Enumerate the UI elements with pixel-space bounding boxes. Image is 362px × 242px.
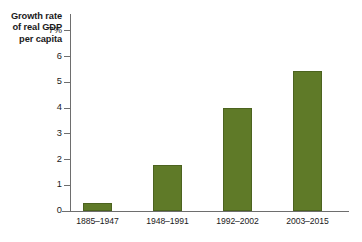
y-axis-label: 5 (2, 77, 62, 86)
bar (83, 203, 112, 211)
y-axis-labels: 7% 6 5 4 3 2 1 0 (0, 0, 62, 242)
y-axis-tick (64, 185, 70, 186)
y-axis-label: 6 (2, 52, 62, 61)
y-axis-tick (64, 30, 70, 31)
x-axis-line (62, 211, 349, 212)
y-axis-label: 3 (2, 129, 62, 138)
y-axis-tick (64, 133, 70, 134)
y-axis-label: 2 (2, 155, 62, 164)
y-axis-label: 0 (2, 206, 62, 215)
x-axis-category-label: 1992–2002 (198, 216, 278, 226)
bar-chart-figure: Growth rate of real GDP per capita 7% 6 … (0, 0, 362, 242)
x-axis-category-label: 2003–2015 (268, 216, 348, 226)
x-axis-category-label: 1885–1947 (58, 216, 138, 226)
y-axis-tick (64, 82, 70, 83)
y-axis-tick (64, 211, 70, 212)
y-axis-tick (64, 159, 70, 160)
x-axis-category-label: 1948–1991 (128, 216, 208, 226)
y-axis-label: 1 (2, 180, 62, 189)
y-axis-label: 7% (2, 26, 62, 35)
y-axis-line (70, 14, 71, 212)
y-axis-tick (64, 108, 70, 109)
bar (223, 108, 252, 211)
y-axis-label: 4 (2, 103, 62, 112)
bar (153, 165, 182, 212)
y-axis-tick (64, 56, 70, 57)
bar (293, 71, 322, 211)
